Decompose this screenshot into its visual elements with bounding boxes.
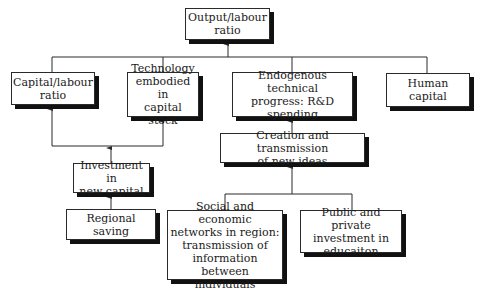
node-investment-new-capital: Investment in new capital	[73, 163, 150, 193]
node-capital-labour-ratio: Capital/labour ratio	[11, 72, 95, 105]
node-regional-saving: Regional saving	[66, 209, 156, 240]
node-public-private-education: Public and private investment in educait…	[300, 210, 402, 253]
diagram-canvas: Output/labour ratio Capital/labour ratio…	[0, 0, 482, 294]
node-human-capital: Human capital	[386, 73, 470, 107]
node-social-economic-networks: Social and economic networks in region: …	[167, 210, 283, 280]
node-creation-transmission-ideas: Creation and transmission of new ideas	[220, 133, 365, 163]
node-endogenous-technical-progress: Endogenous technical progress: R&D spend…	[232, 72, 353, 117]
node-output-labour-ratio: Output/labour ratio	[185, 8, 270, 40]
node-technology-embodied: Technology embodied in capital stock	[127, 72, 199, 117]
